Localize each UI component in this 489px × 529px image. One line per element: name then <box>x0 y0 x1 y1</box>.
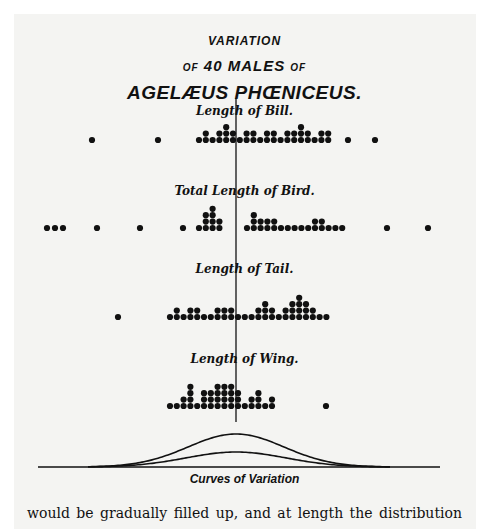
specimen-dot <box>249 403 255 409</box>
specimen-dot <box>289 301 295 307</box>
specimen-dot <box>187 397 193 403</box>
specimen-dot <box>312 219 318 225</box>
specimen-dot <box>196 137 202 143</box>
specimen-dot <box>216 225 222 231</box>
specimen-dot <box>332 225 338 231</box>
specimen-dot <box>255 314 261 320</box>
specimen-dot <box>269 314 275 320</box>
specimen-dot <box>305 137 311 143</box>
specimen-dot <box>210 137 216 143</box>
specimen-dot <box>194 403 200 409</box>
specimen-dot <box>230 131 236 137</box>
specimen-dot <box>269 397 275 403</box>
specimen-dot <box>208 403 214 409</box>
specimen-dot <box>303 301 309 307</box>
specimen-dot <box>271 131 277 137</box>
specimen-dot <box>289 314 295 320</box>
specimen-dot <box>181 397 187 403</box>
specimen-dot <box>223 131 229 137</box>
specimen-dot <box>296 308 302 314</box>
specimen-dot <box>318 131 324 137</box>
specimen-dot <box>255 308 261 314</box>
specimen-dot <box>255 390 261 396</box>
specimen-dot <box>181 403 187 409</box>
specimen-dot <box>319 225 325 231</box>
specimen-dot <box>208 390 214 396</box>
outlier-dot <box>425 225 431 231</box>
specimen-dot <box>303 308 309 314</box>
specimen-dot <box>216 137 222 143</box>
specimen-dot <box>210 219 216 225</box>
outlier-dot <box>115 314 121 320</box>
specimen-dot <box>187 314 193 320</box>
specimen-dot <box>296 295 302 301</box>
specimen-dot <box>262 403 268 409</box>
outlier-dot <box>44 225 50 231</box>
specimen-dot <box>284 131 290 137</box>
specimen-dot <box>269 403 275 409</box>
specimen-dot <box>230 137 236 143</box>
specimen-dot <box>305 225 311 231</box>
specimen-dot <box>244 225 250 231</box>
specimen-dot <box>201 314 207 320</box>
specimen-dot <box>174 403 180 409</box>
specimen-dot <box>223 137 229 143</box>
specimen-dot <box>310 308 316 314</box>
specimen-dot <box>187 403 193 409</box>
specimen-dot <box>310 314 316 320</box>
specimen-dot <box>201 390 207 396</box>
outlier-dot <box>52 225 58 231</box>
outlier-dot <box>89 137 95 143</box>
specimen-dot <box>255 403 261 409</box>
specimen-dot <box>325 137 331 143</box>
specimen-dot <box>194 314 200 320</box>
specimen-dot <box>221 390 227 396</box>
specimen-dot <box>203 212 209 218</box>
specimen-dot <box>298 124 304 130</box>
specimen-dot <box>296 301 302 307</box>
specimen-dot <box>296 314 302 320</box>
specimen-dot <box>264 219 270 225</box>
specimen-dot <box>203 131 209 137</box>
specimen-dot <box>244 131 250 137</box>
specimen-dot <box>187 384 193 390</box>
specimen-dot <box>326 225 332 231</box>
specimen-dot <box>203 225 209 231</box>
specimen-dot <box>312 225 318 231</box>
specimen-dot <box>201 397 207 403</box>
specimen-dot <box>325 131 331 137</box>
specimen-dot <box>194 308 200 314</box>
specimen-dot <box>242 314 248 320</box>
specimen-dot <box>215 403 221 409</box>
specimen-dot <box>187 390 193 396</box>
specimen-dot <box>264 131 270 137</box>
specimen-dot <box>174 308 180 314</box>
specimen-dot <box>292 225 298 231</box>
specimen-dot <box>251 225 257 231</box>
specimen-dot <box>283 308 289 314</box>
specimen-dot <box>283 314 289 320</box>
specimen-dot <box>317 314 323 320</box>
specimen-dot <box>216 219 222 225</box>
outlier-dot <box>345 137 351 143</box>
outlier-dot <box>180 225 186 231</box>
specimen-dot <box>264 225 270 231</box>
specimen-dot <box>269 308 275 314</box>
specimen-dot <box>284 137 290 143</box>
specimen-dot <box>210 212 216 218</box>
specimen-dot <box>187 308 193 314</box>
specimen-dot <box>255 397 261 403</box>
specimen-dot <box>228 403 234 409</box>
outlier-dot <box>137 225 143 231</box>
specimen-dot <box>242 403 248 409</box>
specimen-dot <box>339 225 345 231</box>
specimen-dot <box>221 397 227 403</box>
specimen-dot <box>215 384 221 390</box>
specimen-dot <box>278 137 284 143</box>
specimen-dot <box>251 212 257 218</box>
specimen-dot <box>298 225 304 231</box>
specimen-dot <box>291 137 297 143</box>
specimen-dot <box>262 314 268 320</box>
specimen-dot <box>228 308 234 314</box>
specimen-dot <box>262 308 268 314</box>
